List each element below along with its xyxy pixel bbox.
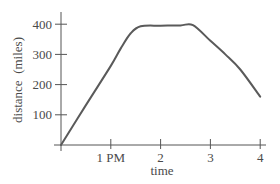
y-tick-label: 200 (33, 77, 53, 92)
x-tick-label: 3 (207, 150, 214, 165)
x-ticks: 1 PM234 (97, 139, 264, 165)
y-tick-label: 300 (33, 47, 53, 62)
x-axis-label: time (150, 163, 173, 178)
line-chart: 100200300400 1 PM234 time distance (mile… (0, 0, 280, 184)
x-tick-label: 4 (257, 150, 264, 165)
y-ticks: 100200300400 (33, 17, 68, 123)
y-tick-label: 100 (33, 107, 53, 122)
y-tick-label: 400 (33, 17, 53, 32)
x-tick-label: 1 PM (97, 150, 126, 165)
distance-line (61, 24, 260, 145)
y-axis-label: distance (miles) (10, 37, 25, 123)
